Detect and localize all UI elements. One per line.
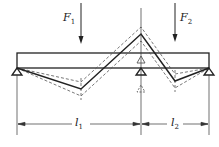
load-f2-label: F2 <box>180 12 192 26</box>
load-f1-label: F1 <box>63 12 75 26</box>
dimension-extension-lines <box>17 75 209 135</box>
load-f1-subscript: 1 <box>71 18 75 26</box>
load-f2-arrow <box>173 3 178 42</box>
span-l2-subscript: 2 <box>175 123 179 131</box>
span-l1-subscript: 1 <box>79 123 83 131</box>
span-l2-label: l2 <box>171 117 179 131</box>
load-f1-symbol: F <box>63 11 71 24</box>
load-f2-symbol: F <box>180 11 188 24</box>
dashed-deflection-lines <box>17 27 209 100</box>
load-f1-arrow <box>79 3 84 44</box>
load-f2-subscript: 2 <box>188 18 192 26</box>
span-l1-label: l1 <box>75 117 83 131</box>
beam-diagram: F1 F2 l1 l2 <box>0 0 219 147</box>
